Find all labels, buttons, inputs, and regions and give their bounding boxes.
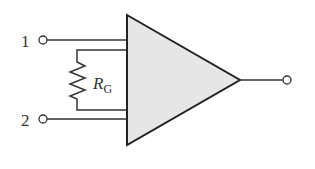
gain-resistor-label: RG — [92, 74, 112, 96]
input-2-terminal[interactable] — [39, 115, 47, 123]
circuit-diagram: 1 2 RG — [0, 0, 315, 169]
amplifier-triangle — [127, 15, 240, 145]
input-2-label: 2 — [21, 111, 30, 130]
input-1-label: 1 — [21, 32, 30, 51]
input-1-terminal[interactable] — [39, 36, 47, 44]
output-terminal[interactable] — [283, 76, 291, 84]
